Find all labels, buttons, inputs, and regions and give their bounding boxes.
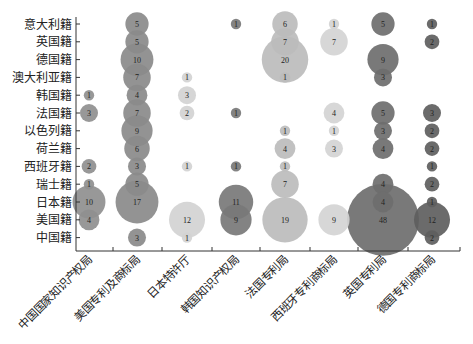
bubble-value: 1 [234,109,238,118]
bubble-value: 7 [283,180,287,189]
bubble-value: 6 [135,145,139,154]
bubble-value: 4 [87,216,91,225]
bubble-value: 1 [234,20,238,29]
bubble-value: 12 [183,216,191,225]
x-tick-label: 日本特许厅 [144,252,193,301]
bubble-value: 4 [381,198,385,207]
bubble-value: 1 [185,234,189,243]
bubble-value: 3 [381,127,385,136]
bubble-value: 2 [430,38,434,47]
bubble-value: 2 [185,109,189,118]
bubble-value: 1 [430,198,434,207]
bubble-value: 4 [381,145,385,154]
bubble-value: 4 [135,91,139,100]
y-tick-label: 以色列籍 [24,123,72,138]
bubble-value: 1 [87,91,91,100]
bubble-value: 3 [135,234,139,243]
y-tick-label: 法国籍 [36,106,72,121]
bubble-value: 7 [332,38,336,47]
bubble-value: 3 [87,109,91,118]
bubble-value: 2 [430,127,434,136]
bubble-value: 1 [332,20,336,29]
bubble-value: 1 [283,73,287,82]
y-tick-label: 瑞士籍 [36,177,72,192]
bubble-value: 3 [381,73,385,82]
y-tick-label: 意大利籍 [24,17,72,32]
bubble-value: 3 [430,109,434,118]
bubble-value: 1 [185,73,189,82]
y-tick-label: 英国籍 [36,34,72,49]
bubble-value: 1 [234,162,238,171]
y-tick-label: 西班牙籍 [24,159,72,174]
bubble-value: 2 [430,234,434,243]
bubble-value: 20 [281,56,289,65]
bubble-value: 1 [430,20,434,29]
bubble-value: 1 [430,162,434,171]
bubble-value: 2 [430,145,434,154]
bubble-value: 1 [332,127,336,136]
bubble-value: 2 [87,162,91,171]
bubble-value: 1 [87,180,91,189]
bubble-value: 5 [381,109,385,118]
y-tick-label: 美国籍 [36,212,72,227]
bubble-value: 4 [283,145,287,154]
bubble-value: 9 [135,127,139,136]
bubble-value: 17 [133,198,141,207]
bubble-value: 1 [283,127,287,136]
bubble-value: 5 [135,20,139,29]
y-tick-label: 日本籍 [36,195,72,210]
y-tick-label: 韩国籍 [36,88,72,103]
bubble-value: 48 [379,216,387,225]
bubble-value: 9 [234,216,238,225]
bubble-value: 10 [133,56,141,65]
bubble-value: 7 [135,73,139,82]
bubble-value: 5 [135,180,139,189]
y-tick-label: 澳大利亚籍 [12,70,72,85]
bubble-value: 6 [283,20,287,29]
bubble-value: 7 [135,109,139,118]
bubble-value: 3 [332,145,336,154]
bubble-value: 4 [332,109,336,118]
bubbles-layer: 4820191712121110109999777776655555444444… [73,11,450,256]
x-axis-ticks: 中国国家知识产权局美国专利及商标局日本特许厅韩国知识产权局法国专利局西班牙专利商… [15,247,460,332]
bubble-value: 9 [332,216,336,225]
bubble-value: 10 [85,198,93,207]
y-tick-label: 中国籍 [36,230,72,245]
y-tick-label: 德国籍 [36,52,72,67]
bubble-value: 5 [381,20,385,29]
y-tick-label: 荷兰籍 [36,141,72,156]
x-tick-label: 法国专利局 [242,252,291,301]
bubble-value: 3 [135,162,139,171]
y-axis-ticks: 意大利籍英国籍德国籍澳大利亚籍韩国籍法国籍以色列籍荷兰籍西班牙籍瑞士籍日本籍美国… [12,17,80,246]
x-tick-label: 英国专利局 [340,252,389,301]
bubble-value: 19 [281,216,289,225]
bubble-value: 1 [283,162,287,171]
bubble-value: 1 [185,162,189,171]
bubble-chart: 4820191712121110109999777776655555444444… [0,0,473,344]
bubble-value: 4 [381,180,385,189]
bubble-value: 9 [381,56,385,65]
bubble-value: 3 [185,91,189,100]
bubble-value: 5 [135,38,139,47]
bubble-value: 7 [283,38,287,47]
bubble-value: 2 [430,180,434,189]
bubble-value: 11 [232,198,240,207]
bubble-value: 12 [428,216,436,225]
